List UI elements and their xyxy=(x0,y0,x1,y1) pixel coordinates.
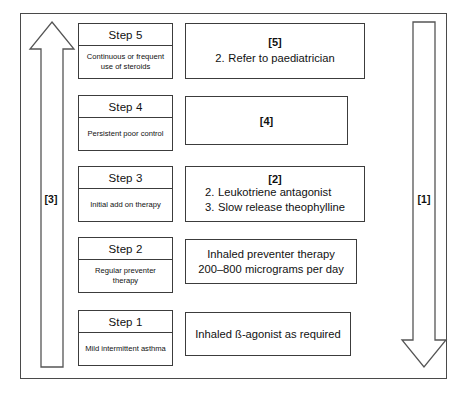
treatment-3-tag: [2] xyxy=(192,173,358,185)
step-5-title: Step 5 xyxy=(79,24,172,46)
treatment-box-3: [2] 2.Leukotriene antagonist 3.Slow rele… xyxy=(185,166,365,222)
step-4-title: Step 4 xyxy=(79,96,172,118)
treatment-box-1: Inhaled ß-agonist as required xyxy=(185,312,351,356)
step-box-2: Step 2 Regular preventer therapy xyxy=(78,237,173,293)
treatment-5-line-1-number: 2. xyxy=(215,51,228,66)
treatment-1-line-1: Inhaled ß-agonist as required xyxy=(192,327,344,342)
step-4-description: Persistent poor control xyxy=(79,118,172,150)
step-box-4: Step 4 Persistent poor control xyxy=(78,95,173,151)
treatment-2-line-1: Inhaled preventer therapy xyxy=(192,247,350,262)
treatment-3-line-2: 3.Slow release theophylline xyxy=(205,200,345,215)
step-1-title: Step 1 xyxy=(79,311,172,333)
step-3-title: Step 3 xyxy=(79,167,172,189)
treatment-box-2: Inhaled preventer therapy 200–800 microg… xyxy=(185,239,357,284)
treatment-3-line-1-number: 2. xyxy=(205,185,218,200)
diagram-canvas: [3] [1] Step 5 Continuous or frequent us… xyxy=(0,0,462,395)
step-5-description: Continuous or frequent use of steroids xyxy=(79,46,172,78)
step-down-arrow-label: [1] xyxy=(409,193,439,205)
treatment-5-tag: [5] xyxy=(192,36,358,48)
step-box-5: Step 5 Continuous or frequent use of ste… xyxy=(78,23,173,79)
treatment-3-line-2-text: Slow release theophylline xyxy=(218,201,345,213)
treatment-3-line-1-text: Leukotriene antagonist xyxy=(218,186,331,198)
treatment-5-lines: 2.Refer to paediatrician xyxy=(192,48,358,66)
treatment-5-line-1: 2.Refer to paediatrician xyxy=(215,51,334,66)
step-box-1: Step 1 Mild intermittent asthma xyxy=(78,310,173,366)
step-1-description: Mild intermittent asthma xyxy=(79,333,172,365)
treatment-box-5: [5] 2.Refer to paediatrician xyxy=(185,23,365,79)
step-2-title: Step 2 xyxy=(79,238,172,260)
treatment-4-tag: [4] xyxy=(192,115,341,127)
treatment-3-line-2-number: 3. xyxy=(205,200,218,215)
step-up-arrow-label: [3] xyxy=(36,193,66,205)
treatment-3-line-1: 2.Leukotriene antagonist xyxy=(205,185,345,200)
treatment-3-lines: 2.Leukotriene antagonist 3.Slow release … xyxy=(192,185,358,215)
step-box-3: Step 3 Initial add on therapy xyxy=(78,166,173,222)
step-2-description: Regular preventer therapy xyxy=(79,260,172,292)
treatment-5-line-1-text: Refer to paediatrician xyxy=(228,52,334,64)
step-3-description: Initial add on therapy xyxy=(79,189,172,221)
treatment-2-line-2: 200–800 micrograms per day xyxy=(192,262,350,277)
treatment-box-4: [4] xyxy=(185,96,348,145)
